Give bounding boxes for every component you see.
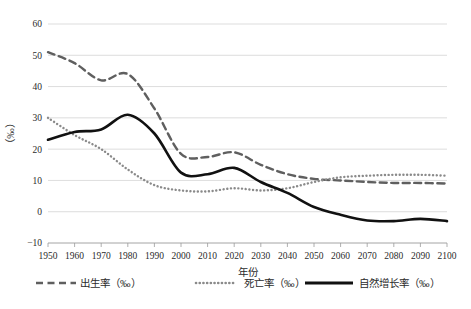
x-tick-label: 2090 (411, 251, 430, 261)
x-tick-label: 2070 (358, 251, 377, 261)
chart-legend: 出生率（‰）死亡率（‰）自然增长率（‰） (36, 277, 440, 289)
x-tick-label: 2010 (198, 251, 217, 261)
chart-canvas: −100102030405060 19501960197019801990200… (0, 0, 471, 309)
y-tick-label: 60 (33, 19, 43, 29)
x-tick-label: 2060 (331, 251, 350, 261)
y-axis-title: （‰） (5, 118, 16, 149)
x-axis-tick-labels: 1950196019701980199020002010202020302040… (39, 251, 457, 261)
x-tick-label: 2030 (251, 251, 270, 261)
x-tick-label: 2000 (172, 251, 191, 261)
x-axis-tick-marks (48, 243, 447, 247)
y-tick-label: 50 (33, 51, 43, 61)
y-tick-label: 0 (37, 207, 42, 217)
x-tick-label: 2080 (384, 251, 403, 261)
x-tick-label: 2100 (438, 251, 457, 261)
y-tick-label: 30 (33, 113, 43, 123)
y-tick-label: 20 (33, 145, 43, 155)
x-tick-label: 2050 (305, 251, 324, 261)
y-tick-label: 10 (33, 176, 43, 186)
legend-label-0[interactable]: 出生率（‰） (80, 277, 141, 289)
x-tick-label: 2040 (278, 251, 297, 261)
y-tick-label: 40 (33, 82, 43, 92)
x-tick-label: 1990 (145, 251, 164, 261)
y-axis-tick-labels: −100102030405060 (27, 19, 42, 248)
x-axis-title: 年份 (238, 266, 259, 278)
line-chart: −100102030405060 19501960197019801990200… (0, 0, 471, 309)
legend-label-2[interactable]: 自然增长率（‰） (359, 277, 440, 289)
y-tick-label: −10 (27, 238, 42, 248)
series-line-2 (48, 115, 447, 222)
data-series (48, 52, 447, 221)
x-tick-label: 1980 (118, 251, 137, 261)
x-tick-label: 1950 (39, 251, 58, 261)
legend-label-1[interactable]: 死亡率（‰） (244, 277, 305, 289)
x-tick-label: 1960 (65, 251, 84, 261)
x-tick-label: 1970 (92, 251, 111, 261)
gridlines (48, 24, 447, 243)
x-tick-label: 2020 (225, 251, 244, 261)
